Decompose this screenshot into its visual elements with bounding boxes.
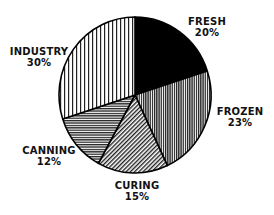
- label-canning: CANNING 12%: [20, 145, 78, 167]
- label-industry: INDUSTRY 30%: [8, 46, 70, 68]
- label-frozen-name: FROZEN: [212, 106, 268, 117]
- label-industry-name: INDUSTRY: [8, 46, 70, 57]
- label-fresh-pct: 20%: [181, 27, 233, 38]
- label-industry-pct: 30%: [8, 57, 70, 68]
- label-canning-pct: 12%: [20, 156, 78, 167]
- label-frozen: FROZEN 23%: [212, 106, 268, 128]
- pie-slices: [59, 17, 211, 173]
- label-frozen-pct: 23%: [212, 117, 268, 128]
- label-fresh: FRESH 20%: [181, 16, 233, 38]
- label-curing-pct: 15%: [110, 191, 164, 202]
- label-curing: CURING 15%: [110, 180, 164, 202]
- label-canning-name: CANNING: [20, 145, 78, 156]
- label-curing-name: CURING: [110, 180, 164, 191]
- label-fresh-name: FRESH: [181, 16, 233, 27]
